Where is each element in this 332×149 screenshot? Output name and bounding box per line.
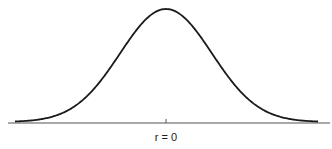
bell-curve: [15, 9, 318, 122]
center-label: r = 0: [155, 131, 177, 143]
bell-curve-diagram: r = 0: [0, 0, 332, 149]
